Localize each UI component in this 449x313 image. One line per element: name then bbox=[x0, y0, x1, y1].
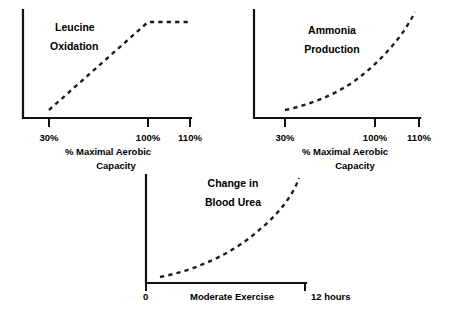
chart-ammonia-production: Ammonia Production 30% 100% 110% % Maxim… bbox=[254, 10, 431, 171]
chart1-xtick-label-110: 110% bbox=[178, 132, 202, 143]
three-panel-metabolism-figure: Leucine Oxidation 30% 100% 110% % Maxima… bbox=[0, 0, 449, 313]
chart2-xtick-label-110: 110% bbox=[407, 132, 431, 143]
chart2-xaxis-caption-line2: Capacity bbox=[335, 160, 375, 171]
chart3-title-line2: Blood Urea bbox=[205, 196, 261, 208]
figure-root: Leucine Oxidation 30% 100% 110% % Maxima… bbox=[0, 0, 449, 313]
chart3-data-curve bbox=[160, 178, 299, 277]
chart2-title-line2: Production bbox=[304, 43, 359, 55]
chart-leucine-oxidation: Leucine Oxidation 30% 100% 110% % Maxima… bbox=[23, 10, 202, 171]
chart2-xtick-label-30: 30% bbox=[275, 132, 295, 143]
chart3-xaxis-caption: Moderate Exercise bbox=[190, 291, 274, 302]
chart1-xtick-label-100: 100% bbox=[136, 132, 161, 143]
chart3-title-line1: Change in bbox=[208, 177, 259, 189]
chart3-xtick-label-0: 0 bbox=[143, 291, 148, 302]
chart1-axes bbox=[23, 10, 191, 118]
chart1-xaxis-caption-line2: Capacity bbox=[96, 160, 136, 171]
chart1-xtick-label-30: 30% bbox=[39, 132, 59, 143]
chart3-axes bbox=[146, 175, 306, 283]
chart1-title-line2: Oxidation bbox=[50, 40, 98, 52]
chart1-xaxis-caption-line1: % Maximal Aerobic bbox=[65, 146, 151, 157]
chart2-title-line1: Ammonia bbox=[308, 24, 356, 36]
chart1-data-curve bbox=[49, 22, 191, 110]
chart2-xtick-label-100: 100% bbox=[363, 132, 388, 143]
chart1-title-line1: Leucine bbox=[55, 21, 95, 33]
chart3-xtick-label-12-hours: 12 hours bbox=[311, 291, 351, 302]
chart-change-in-blood-urea: Change in Blood Urea 0 12 hours Moderate… bbox=[143, 175, 351, 302]
chart2-xaxis-caption-line1: % Maximal Aerobic bbox=[302, 146, 388, 157]
